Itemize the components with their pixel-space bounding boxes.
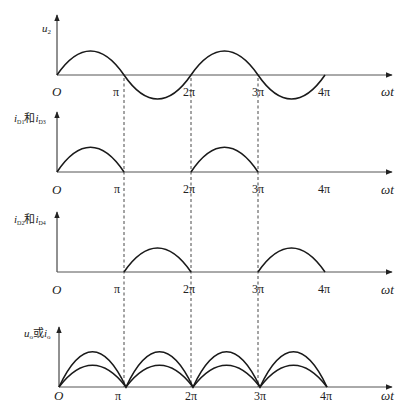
x-axis-label: ωt: [381, 84, 394, 99]
panel-uo-io: uo或io O π 2π 3π 4π ωt: [24, 327, 394, 403]
panel-id2-id4: iD2和iD4 O π 2π 3π 4π ωt: [14, 212, 394, 297]
x-axis-label: ωt: [381, 282, 394, 297]
tick-4pi: 4π: [318, 182, 330, 196]
tick-3pi: 3π: [252, 182, 264, 196]
y-axis-label: iD1和iD3: [14, 112, 46, 125]
rectifier-waveform-diagram: u2 O π 2π 3π 4π ωt iD1和iD3 O π 2π 3π 4π …: [0, 0, 411, 420]
tick-3pi: 3π: [254, 389, 266, 403]
origin-label: O: [52, 282, 62, 297]
tick-pi: π: [114, 282, 120, 296]
tick-3pi: 3π: [252, 282, 264, 296]
half-sine-1: [57, 147, 124, 172]
tick-4pi: 4π: [320, 389, 332, 403]
dashed-guides: [124, 78, 258, 387]
tick-4pi: 4π: [318, 282, 330, 296]
half-sine-1: [124, 248, 191, 272]
tick-2pi: 2π: [185, 389, 197, 403]
rectified-wave-inner: [59, 365, 327, 387]
x-axis-label: ωt: [381, 388, 394, 403]
y-axis-label: uo或io: [24, 327, 51, 341]
y-axis-label: u2: [42, 22, 52, 36]
tick-pi: π: [115, 389, 121, 403]
origin-label: O: [54, 388, 64, 403]
y-axis-label: iD2和iD4: [14, 213, 46, 226]
panel-id1-id3: iD1和iD3 O π 2π 3π 4π ωt: [14, 112, 394, 197]
rectified-wave-outer: [59, 352, 327, 387]
tick-2pi: 2π: [183, 85, 195, 99]
tick-pi: π: [114, 182, 120, 196]
x-axis-label: ωt: [381, 182, 394, 197]
tick-3pi: 3π: [252, 85, 264, 99]
panel-u2: u2 O π 2π 3π 4π ωt: [42, 15, 394, 99]
half-sine-2: [191, 147, 258, 172]
origin-label: O: [52, 182, 62, 197]
origin-label: O: [52, 84, 62, 99]
half-sine-2: [258, 248, 325, 272]
tick-2pi: 2π: [183, 182, 195, 196]
tick-2pi: 2π: [183, 282, 195, 296]
tick-pi: π: [113, 85, 119, 99]
tick-4pi: 4π: [318, 85, 330, 99]
